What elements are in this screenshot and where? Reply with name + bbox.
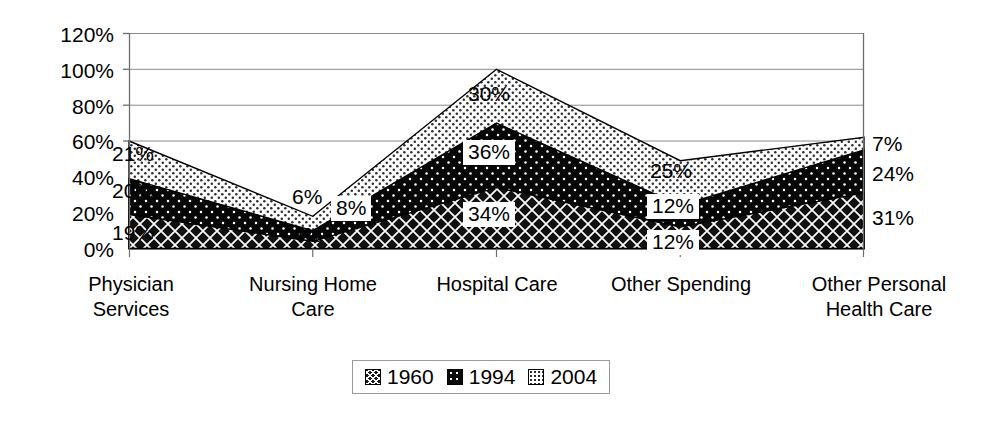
x-tick-line-1: Other Spending <box>611 272 751 297</box>
x-axis-ticks <box>130 249 864 258</box>
x-tick-label-nursing-home-care: Nursing Home Care <box>249 272 377 322</box>
data-label: 7% <box>872 133 902 155</box>
data-label: 12% <box>647 230 699 255</box>
data-label: 8% <box>331 196 371 221</box>
legend-label: 1960 <box>387 366 434 387</box>
legend-swatch-icon-1994 <box>447 369 463 385</box>
legend-entry-1994: 1994 <box>447 366 516 387</box>
data-label: 4% <box>292 224 322 246</box>
legend-label: 2004 <box>550 366 597 387</box>
data-label: 24% <box>872 163 914 185</box>
data-label: 19% <box>112 222 154 244</box>
data-label: 30% <box>468 83 510 105</box>
data-label: 34% <box>463 202 515 227</box>
data-label: 31% <box>872 207 914 229</box>
x-tick-label-other-spending: Other Spending <box>611 272 751 297</box>
x-axis: Physician Services Nursing Home Care Hos… <box>0 272 990 342</box>
data-label: 6% <box>292 186 322 208</box>
x-tick-line-1: Nursing Home <box>249 272 377 297</box>
legend-entry-1960: 1960 <box>365 366 434 387</box>
stacked-area-chart: 120% 100% 80% 60% 40% 20% 0% <box>0 0 990 426</box>
x-tick-label-other-personal-health-care: Other Personal Health Care <box>812 272 947 322</box>
data-label: 36% <box>463 140 515 165</box>
x-tick-line-1: Other Personal <box>812 272 947 297</box>
data-label: 25% <box>650 160 692 182</box>
data-label: 12% <box>647 194 699 219</box>
y-axis-ticks <box>123 34 129 142</box>
x-tick-label-physician-services: Physician Services <box>88 272 174 322</box>
data-label: 20% <box>112 180 154 202</box>
x-tick-line-2: Care <box>249 297 377 322</box>
legend-swatch-icon-2004 <box>528 369 544 385</box>
legend: 1960 1994 2004 <box>352 360 610 394</box>
x-tick-line-1: Physician <box>88 272 174 297</box>
x-tick-label-hospital-care: Hospital Care <box>436 272 557 297</box>
legend-entry-2004: 2004 <box>528 366 597 387</box>
x-tick-line-2: Health Care <box>812 297 947 322</box>
legend-label: 1994 <box>469 366 516 387</box>
x-tick-line-1: Hospital Care <box>436 272 557 297</box>
data-label: 21% <box>112 143 154 165</box>
x-tick-line-2: Services <box>88 297 174 322</box>
legend-swatch-icon-1960 <box>365 369 381 385</box>
